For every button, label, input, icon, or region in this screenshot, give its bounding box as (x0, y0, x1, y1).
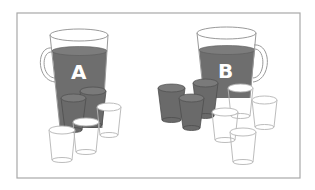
pitcher-b-label: B (218, 59, 233, 83)
pitcher-b-rim (197, 27, 256, 39)
pitcher-a-label: A (71, 60, 87, 84)
pitcher-a-liquid-surface (52, 47, 107, 56)
empty-glass (212, 108, 238, 143)
empty-glass (252, 96, 277, 130)
empty-glass (73, 118, 99, 155)
pitcher-a-rim (50, 29, 108, 41)
pitcher-glasses-diagram: A B (0, 0, 315, 190)
pitcher-b-liquid-surface (199, 46, 255, 55)
filled-glass (179, 94, 204, 131)
empty-glass (230, 128, 256, 165)
empty-glass (49, 126, 75, 163)
